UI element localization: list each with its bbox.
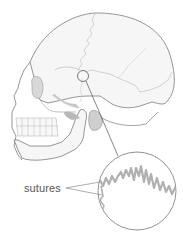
maxilla <box>16 118 58 136</box>
skull-illustration <box>0 0 183 235</box>
magnified-inset <box>98 152 176 230</box>
sutures-pointer-lower <box>66 188 102 195</box>
cranium-outline <box>30 13 174 108</box>
orbit <box>32 76 43 98</box>
sutures-label: sutures <box>24 182 61 194</box>
mastoid-region <box>89 110 103 130</box>
skull-diagram: sutures <box>0 0 183 235</box>
occipital-base <box>102 112 158 126</box>
sutures-pointer-upper <box>66 182 100 188</box>
